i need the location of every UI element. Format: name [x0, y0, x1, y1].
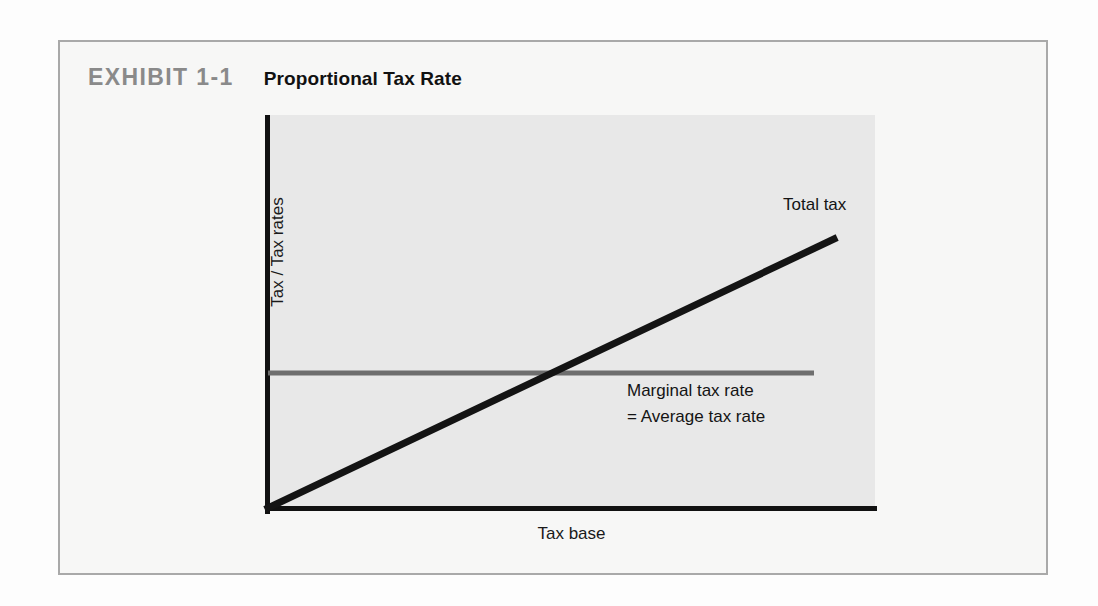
marginal-tax-rate-label-line1: Marginal tax rate	[627, 378, 765, 404]
x-axis-title: Tax base	[268, 524, 875, 544]
plot-region	[268, 115, 875, 510]
marginal-tax-rate-label: Marginal tax rate = Average tax rate	[627, 378, 765, 431]
total-tax-label: Total tax	[783, 195, 846, 215]
exhibit-card: EXHIBIT 1-1 Proportional Tax Rate Tax / …	[58, 40, 1048, 575]
page-background: EXHIBIT 1-1 Proportional Tax Rate Tax / …	[0, 0, 1098, 606]
marginal-tax-rate-label-line2: = Average tax rate	[627, 404, 765, 430]
chart-area: Tax / Tax rates Tax base Total tax Margi…	[60, 42, 1050, 577]
y-axis-title: Tax / Tax rates	[268, 162, 288, 342]
x-axis-line	[265, 506, 877, 511]
